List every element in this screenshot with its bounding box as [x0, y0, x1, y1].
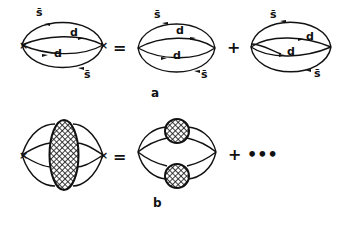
caption-b: b	[153, 196, 162, 210]
diagram-b-full: × ×	[19, 120, 108, 190]
feynman-diagram-figure: × × s̄ d d s̄ = s̄ d d s̄ + s̄ d d s̄	[0, 0, 351, 225]
continuation-terms: + •••	[228, 145, 278, 164]
hatched-blob-upper-icon	[165, 119, 189, 143]
label-d-upper: d	[176, 24, 184, 37]
diagram-a-direct: s̄ d d s̄	[138, 8, 215, 81]
label-sbar-bottom: s̄	[314, 67, 321, 80]
hatched-blob-lower-icon	[165, 164, 189, 188]
equals-sign: =	[113, 38, 126, 57]
caption-a: a	[151, 86, 159, 100]
arrow-icon	[194, 70, 200, 73]
arrow-icon	[42, 54, 48, 57]
vertex-cross-icon: ×	[19, 39, 28, 52]
label-sbar-top: s̄	[270, 8, 277, 21]
diagram-a-full: × × s̄ d d s̄	[19, 6, 108, 81]
hatched-blob-icon	[50, 120, 79, 190]
label-sbar-bottom: s̄	[84, 68, 91, 81]
diagram-b-factorized	[138, 119, 216, 188]
label-sbar-top: s̄	[36, 6, 43, 19]
label-d-lower: d	[173, 49, 181, 62]
vertex-cross-icon: ×	[99, 149, 108, 162]
equals-sign: =	[113, 147, 126, 166]
label-sbar-bottom: s̄	[201, 68, 208, 81]
diagram-a-crossed: s̄ d d s̄	[251, 8, 331, 80]
label-d-upper: d	[70, 26, 78, 39]
label-sbar-top: s̄	[154, 8, 161, 21]
label-d-upper: d	[306, 30, 314, 43]
label-d-lower: d	[287, 45, 295, 58]
label-d-lower: d	[54, 47, 62, 60]
plus-sign: +	[227, 38, 240, 57]
vertex-cross-icon: ×	[19, 149, 28, 162]
vertex-cross-icon: ×	[99, 39, 108, 52]
